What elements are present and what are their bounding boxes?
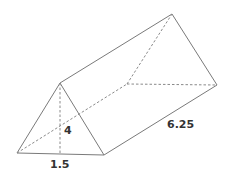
prism-diagram: 4 1.5 6.25	[0, 0, 228, 175]
hidden-bottom-left-edge	[17, 84, 127, 153]
base-label: 1.5	[50, 158, 70, 171]
hidden-back-left-slant-edge	[127, 14, 172, 84]
top-ridge-edge	[60, 14, 172, 83]
bottom-right-length-edge	[104, 85, 217, 155]
back-right-slant-edge	[172, 14, 217, 85]
length-label: 6.25	[167, 118, 194, 131]
hidden-back-base-edge	[127, 84, 217, 85]
height-label: 4	[64, 124, 72, 137]
